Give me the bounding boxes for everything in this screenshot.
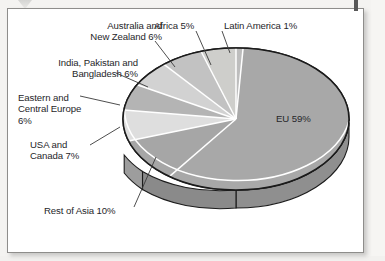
page-right-margin xyxy=(371,0,385,261)
slice-label-usa-canada-line2: Canada 7% xyxy=(30,150,79,161)
slice-label-africa: Africa 5% xyxy=(154,20,216,31)
slice-label-eastern-central-europe: Eastern and Central Europe 6% xyxy=(18,92,116,126)
slice-label-eu: EU 59% xyxy=(276,113,330,124)
slice-label-india-line1: India, Pakistan and xyxy=(58,57,138,68)
slice-label-eastern-line2: Central Europe xyxy=(18,103,81,114)
page-bottom-margin xyxy=(0,256,385,261)
slice-label-india-line2: Bangladesh 6% xyxy=(72,68,138,79)
slice-label-rest-of-asia: Rest of Asia 10% xyxy=(44,205,140,216)
page-top-tab-marker xyxy=(354,0,358,11)
slice-label-latin-america: Latin America 1% xyxy=(224,20,330,31)
slice-label-usa-canada: USA and Canada 7% xyxy=(30,139,104,162)
slice-label-australia-new-zealand: Australia and New Zealand 6% xyxy=(70,20,162,43)
pie-chart: Australia and New Zealand 6% Africa 5% L… xyxy=(8,9,365,254)
slice-label-usa-canada-line1: USA and xyxy=(30,139,67,150)
slice-label-australia-new-zealand-line2: New Zealand 6% xyxy=(90,31,162,42)
pie-chart-graphic xyxy=(8,9,365,254)
pie-side-wall-left xyxy=(124,155,142,190)
slice-label-india-pakistan-bangladesh: India, Pakistan and Bangladesh 6% xyxy=(34,57,138,80)
slice-label-eastern-line1: Eastern and xyxy=(18,92,69,103)
slice-label-eastern-line3: 6% xyxy=(18,115,32,126)
chart-frame: Australia and New Zealand 6% Africa 5% L… xyxy=(7,8,364,253)
